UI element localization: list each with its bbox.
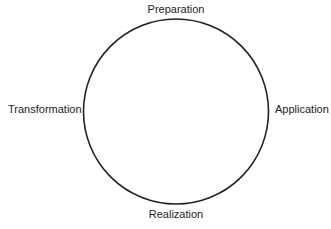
label-realization: Realization [0,208,331,220]
label-transformation: Transformation [8,103,82,115]
label-preparation: Preparation [0,3,331,15]
label-application: Application [275,103,329,115]
cycle-diagram: Preparation Application Realization Tran… [0,0,331,229]
